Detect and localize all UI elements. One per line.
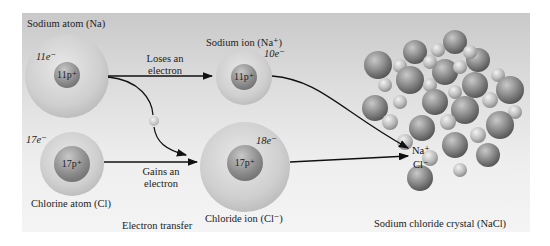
na-to-crystal-arrow bbox=[272, 76, 408, 148]
electron-path-arrow bbox=[108, 77, 186, 155]
cl-to-crystal-arrow bbox=[290, 156, 408, 162]
arrows-layer bbox=[0, 0, 550, 246]
